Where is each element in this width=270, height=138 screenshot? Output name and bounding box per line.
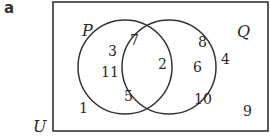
universal-set-label: U [33,117,47,136]
set-q-label: Q [237,22,250,41]
region-p-value: 11 [101,64,119,80]
region-q-value: 6 [193,59,202,75]
region-q-value: 10 [194,91,212,107]
region-p-value: 5 [124,88,133,104]
region-q-value: 8 [198,34,207,50]
region-p-value: 7 [130,32,139,48]
region-intersection-value: 2 [158,56,167,72]
region-q-value: 4 [221,51,230,67]
set-p-label: P [81,21,93,40]
venn-diagram: U P Q 3 7 11 5 2 8 6 4 10 1 9 [0,0,270,138]
region-outside-value: 9 [243,103,252,119]
region-p-value: 3 [108,43,117,59]
region-outside-value: 1 [79,100,88,116]
